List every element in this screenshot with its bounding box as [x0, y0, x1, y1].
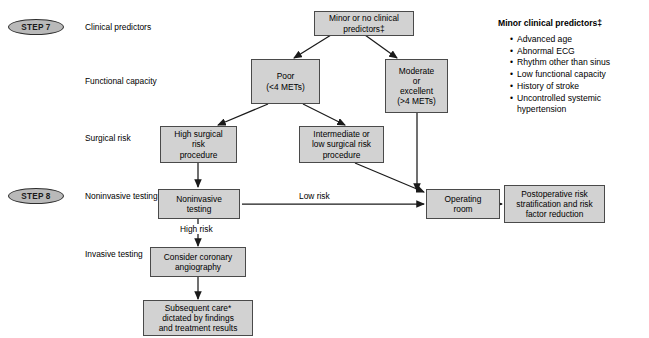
flowchart-diagram: STEP 7 STEP 8 Clinical predictors Functi…: [0, 0, 649, 338]
step-badge-step7: STEP 7: [8, 19, 64, 35]
node-intermediate-or-low-surgical-risk-procedure[interactable]: Intermediate or low surgical risk proced…: [299, 126, 384, 163]
legend-item: Advanced age: [510, 34, 646, 45]
legend-item: History of stroke: [510, 81, 646, 92]
node-high-surgical-risk-procedure[interactable]: High surgical risk procedure: [160, 126, 237, 163]
edge-intermediate-to-operating-room: [355, 163, 424, 192]
node-minor-or-no-clinical-predictors[interactable]: Minor or no clinical predictors‡: [314, 11, 414, 36]
legend-item: Rhythm other than sinus: [510, 57, 646, 68]
node-subsequent-care[interactable]: Subsequent care* dictated by findings an…: [143, 300, 253, 336]
step-badge-step8: STEP 8: [8, 188, 64, 204]
legend-list: Advanced age Abnormal ECG Rhythm other t…: [496, 34, 646, 115]
row-label-surgical-risk: Surgical risk: [85, 133, 131, 143]
edge-minor-to-poor: [294, 35, 331, 58]
legend-minor-clinical-predictors: Minor clinical predictors‡ Advanced age …: [496, 18, 646, 115]
row-label-noninvasive-testing: Noninvasive testing: [85, 191, 158, 201]
row-label-invasive-testing: Invasive testing: [85, 249, 143, 259]
legend-item: Low functional capacity: [510, 69, 646, 80]
row-label-functional-capacity: Functional capacity: [85, 76, 157, 86]
edge-label-high-risk: High risk: [178, 224, 215, 234]
edge-poor-to-intermediate-surgical: [303, 104, 345, 125]
node-postoperative-risk-stratification[interactable]: Postoperative risk stratification and ri…: [504, 185, 605, 223]
legend-title: Minor clinical predictors‡: [498, 18, 646, 28]
node-consider-coronary-angiography[interactable]: Consider coronary angiography: [150, 247, 246, 277]
edge-poor-to-high-surgical: [218, 104, 268, 125]
legend-item: Uncontrolled systemic hypertension: [510, 93, 646, 115]
row-label-clinical-predictors: Clinical predictors: [85, 22, 151, 32]
node-noninvasive-testing[interactable]: Noninvasive testing: [158, 189, 240, 219]
node-moderate-or-excellent-mets[interactable]: Moderate or excellent (>4 METs): [385, 59, 448, 113]
edge-minor-to-moderate: [365, 35, 397, 58]
legend-item: Abnormal ECG: [510, 46, 646, 57]
node-poor-mets[interactable]: Poor (<4 METs): [251, 59, 320, 104]
node-operating-room[interactable]: Operating room: [426, 189, 500, 219]
edge-label-low-risk: Low risk: [297, 191, 332, 201]
